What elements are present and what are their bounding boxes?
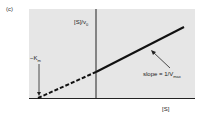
hanes-woolf-chart: [S]/v0 −Km slope = 1/Vmax [S] — [0, 0, 200, 118]
x-axis-label: [S] — [162, 106, 170, 112]
plot-background — [29, 9, 195, 99]
